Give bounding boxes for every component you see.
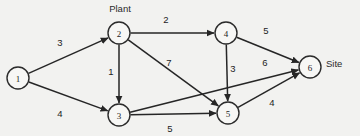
node-label-3: 3 (117, 111, 122, 121)
node-label-2: 2 (117, 29, 122, 39)
network-diagram-canvas: 3421735654 123456 PlantSite (0, 0, 360, 136)
node-3[interactable]: 3 (108, 104, 130, 126)
annotation-site: Site (326, 58, 342, 69)
edge-weight-3-5: 5 (167, 123, 172, 134)
edge-weight-3-6: 6 (262, 57, 267, 68)
node-label-6: 6 (308, 63, 313, 73)
network-graph: 3421735654 123456 PlantSite (0, 0, 360, 136)
nodes-layer: 123456 (7, 22, 321, 126)
edge-3-to-5 (130, 113, 216, 115)
edge-1-to-2 (29, 38, 109, 73)
edge-weight-4-5: 3 (230, 63, 235, 74)
node-label-1: 1 (16, 74, 21, 84)
node-4[interactable]: 4 (215, 22, 237, 44)
node-label-4: 4 (224, 29, 229, 39)
edge-weight-5-6: 4 (269, 97, 274, 108)
edge-weight-2-5: 7 (166, 57, 171, 68)
node-1[interactable]: 1 (7, 67, 29, 89)
edge-weight-1-2: 3 (57, 37, 62, 48)
edge-4-to-6 (237, 37, 299, 62)
edge-4-to-5 (226, 44, 227, 101)
edge-weight-2-4: 2 (163, 14, 168, 25)
edge-weight-4-6: 5 (263, 25, 268, 36)
edges-layer: 3421735654 (29, 14, 300, 134)
node-5[interactable]: 5 (217, 102, 239, 124)
annotation-plant: Plant (109, 3, 131, 14)
node-2[interactable]: 2 (108, 22, 130, 44)
edge-2-to-5 (128, 40, 218, 106)
node-6[interactable]: 6 (299, 56, 321, 78)
edge-weight-2-3: 1 (108, 66, 113, 77)
node-label-5: 5 (226, 109, 231, 119)
edge-weight-1-3: 4 (57, 108, 62, 119)
edge-1-to-3 (29, 82, 108, 111)
